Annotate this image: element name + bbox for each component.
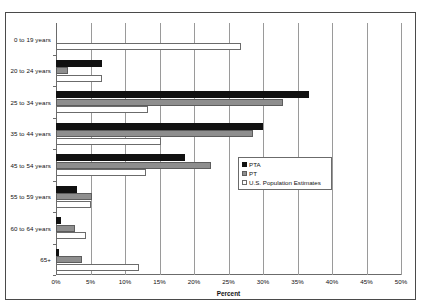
x-tick-label: 50% [395, 278, 407, 285]
legend-label: PT [249, 170, 257, 177]
x-tick-label: 10% [119, 278, 131, 285]
legend-label: U.S. Population Estimates [249, 179, 321, 186]
bar-group: 60 to 64 years [56, 212, 401, 244]
legend-label: PTA [249, 161, 261, 168]
bar-pt [56, 193, 92, 200]
bar-pt [56, 130, 253, 137]
bar-group: 25 to 34 years [56, 86, 401, 118]
bar-pop [56, 201, 91, 208]
legend-item: PT [242, 169, 328, 178]
category-label: 20 to 24 years [10, 67, 51, 74]
bar-group: 45 to 54 years [56, 149, 401, 181]
bar-pta [56, 249, 59, 256]
bar-group: 20 to 24 years [56, 55, 401, 87]
x-tick-label: 25% [222, 278, 234, 285]
legend-swatch-pop [242, 180, 247, 185]
legend-item: U.S. Population Estimates [242, 178, 328, 187]
bar-pta [56, 217, 61, 224]
category-label: 45 to 54 years [10, 161, 51, 168]
category-label: 55 to 59 years [10, 193, 51, 200]
x-tick-label: 45% [360, 278, 372, 285]
category-label: 65+ [40, 256, 51, 263]
bar-pt [56, 256, 82, 263]
bar-pt [56, 99, 283, 106]
x-tick-label: 15% [153, 278, 165, 285]
bar-pta [56, 186, 77, 193]
bar-pta [56, 60, 102, 67]
legend-swatch-pta [242, 162, 247, 167]
category-label: 35 to 44 years [10, 130, 51, 137]
bar-pop [56, 106, 148, 113]
x-tick-label: 0% [52, 278, 61, 285]
x-tick-label: 35% [291, 278, 303, 285]
category-label: 0 to 19 years [14, 35, 51, 42]
bar-pta [56, 91, 309, 98]
x-axis-label: Percent [56, 290, 401, 297]
category-label: 60 to 64 years [10, 224, 51, 231]
legend-item: PTA [242, 160, 328, 169]
bar-pop [56, 264, 139, 271]
legend-swatch-pt [242, 171, 247, 176]
chart-figure: 0 to 19 years20 to 24 years25 to 34 year… [5, 12, 416, 300]
x-tick-label: 30% [257, 278, 269, 285]
bar-group: 65+ [56, 244, 401, 276]
bar-pop [56, 75, 102, 82]
bar-pt [56, 67, 68, 74]
bar-pta [56, 154, 185, 161]
bar-pt [56, 162, 211, 169]
bar-pop [56, 43, 241, 50]
y-tick-mark [53, 275, 56, 276]
bar-pop [56, 138, 161, 145]
bar-pop [56, 232, 86, 239]
x-tick-label: 40% [326, 278, 338, 285]
x-tick-label: 20% [188, 278, 200, 285]
gridline [401, 23, 402, 275]
bar-group: 0 to 19 years [56, 23, 401, 55]
bar-pt [56, 225, 75, 232]
bar-group: 55 to 59 years [56, 181, 401, 213]
category-label: 25 to 34 years [10, 98, 51, 105]
bar-pta [56, 123, 263, 130]
plot-area: 0 to 19 years20 to 24 years25 to 34 year… [56, 23, 401, 275]
bar-group: 35 to 44 years [56, 118, 401, 150]
chart-legend: PTAPTU.S. Population Estimates [238, 157, 332, 190]
bar-pop [56, 169, 146, 176]
x-tick-label: 5% [86, 278, 95, 285]
